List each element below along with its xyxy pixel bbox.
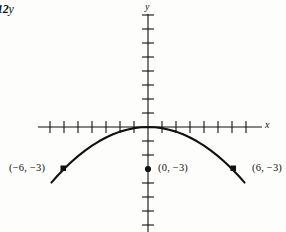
figure-number: 12y [0, 3, 14, 15]
y-axis-label: y [145, 2, 149, 12]
x-axis-label: x [265, 120, 269, 130]
right-point-label: (6, −3) [252, 163, 282, 174]
point-marker-vertex [145, 166, 151, 172]
left-point-label: (−6, −3) [9, 163, 45, 174]
parabola-figure: 12y y x (−6, −3) (0, −3) (6, −3) [0, 0, 286, 232]
point-marker-right [231, 166, 237, 172]
figure-number-value: 12 [0, 2, 9, 16]
figure-number-suffix: y [9, 2, 14, 16]
point-marker-left [61, 166, 67, 172]
vertex-point-label: (0, −3) [158, 163, 188, 174]
coordinate-plane [0, 0, 286, 232]
